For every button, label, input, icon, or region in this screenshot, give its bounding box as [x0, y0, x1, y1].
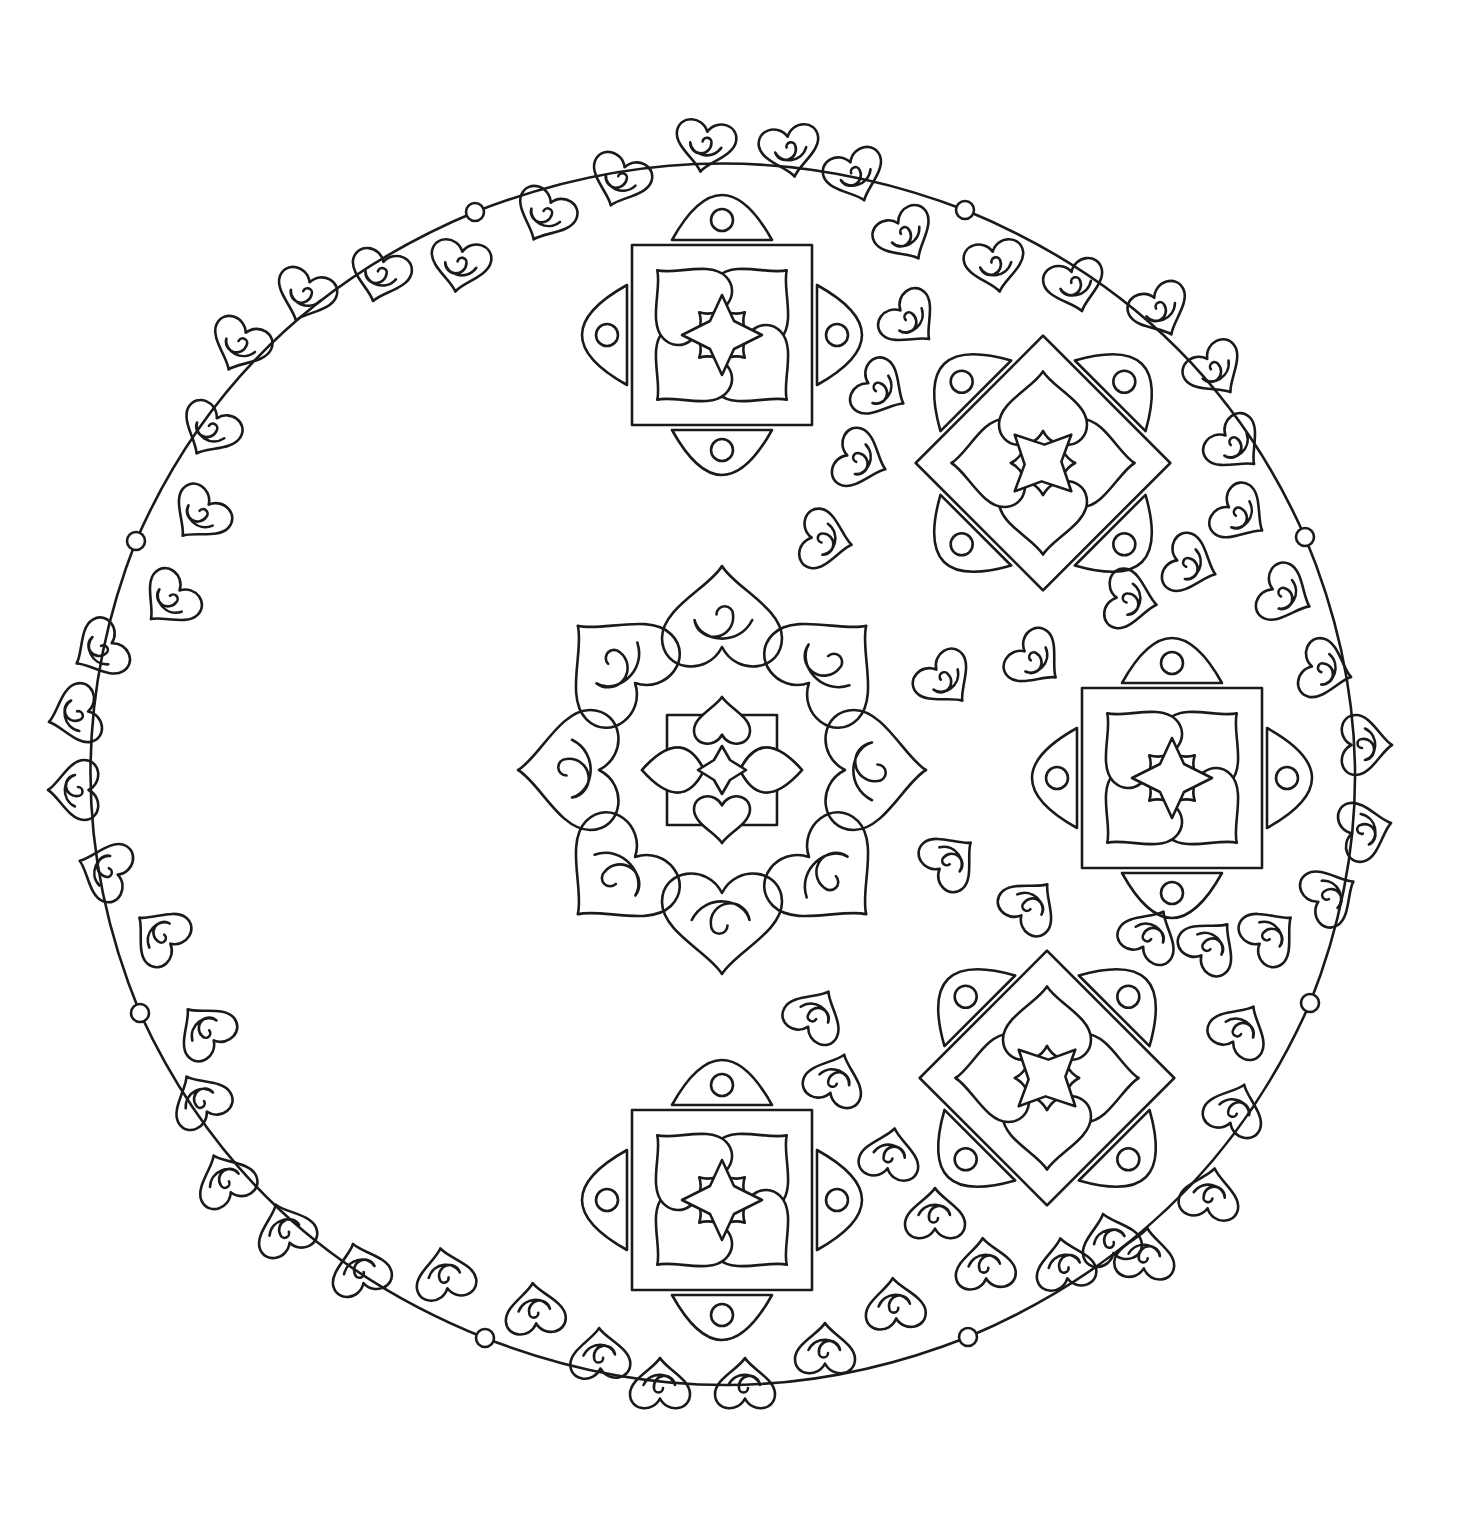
- swirl-heart: [845, 352, 918, 429]
- swirl-heart: [1335, 794, 1399, 865]
- joint-dot: [127, 532, 145, 550]
- swirl-heart: [165, 990, 243, 1067]
- swirl-heart: [856, 1123, 924, 1183]
- swirl-heart: [913, 820, 990, 898]
- mandala-artwork: [0, 0, 1470, 1523]
- swirl-heart: [268, 263, 342, 331]
- swirl-heart: [1204, 477, 1280, 555]
- swirl-heart: [1342, 715, 1392, 775]
- swirl-heart: [907, 643, 985, 720]
- swirl-heart: [1177, 334, 1255, 410]
- swirl-heart: [867, 200, 944, 273]
- swirl-heart: [671, 117, 739, 177]
- swirl-heart: [569, 1327, 631, 1379]
- center-heart-medallion: [518, 566, 926, 974]
- swirl-heart: [503, 1280, 567, 1335]
- swirl-heart: [160, 478, 238, 555]
- joint-dot: [956, 201, 974, 219]
- joint-dot: [959, 1328, 977, 1346]
- swirl-heart: [756, 122, 824, 182]
- swirl-heart: [1199, 1074, 1273, 1142]
- swirl-heart: [777, 977, 854, 1050]
- swirl-heart: [583, 148, 657, 216]
- swirl-heart: [186, 1143, 262, 1214]
- heart-flower: [845, 265, 1241, 661]
- heart-flower: [582, 195, 862, 475]
- swirl-heart: [1202, 992, 1279, 1065]
- swirl-heart: [1123, 276, 1199, 347]
- swirl-heart: [1158, 529, 1226, 603]
- swirl-heart: [324, 1236, 395, 1300]
- swirl-heart: [797, 506, 857, 574]
- swirl-heart: [130, 562, 208, 640]
- swirl-heart: [171, 395, 248, 468]
- heart-flower: [582, 1060, 862, 1340]
- swirl-heart: [1176, 1163, 1244, 1223]
- swirl-heart: [201, 311, 277, 382]
- swirl-heart: [426, 237, 494, 297]
- swirl-heart: [1295, 856, 1368, 933]
- joint-dot: [476, 1329, 494, 1347]
- swirl-heart: [1102, 566, 1162, 634]
- swirl-heart: [905, 1188, 965, 1238]
- swirl-heart: [1233, 895, 1310, 973]
- swirl-heart: [799, 1044, 873, 1112]
- heart-flower: [1032, 638, 1312, 918]
- swirl-heart: [795, 1323, 855, 1373]
- swirl-heart: [992, 865, 1070, 942]
- swirl-heart: [411, 1243, 479, 1303]
- swirl-heart: [248, 1194, 322, 1262]
- swirl-heart: [863, 1275, 927, 1330]
- joint-dot: [466, 203, 484, 221]
- swirl-heart: [120, 895, 197, 973]
- swirl-heart: [998, 622, 1075, 700]
- swirl-heart: [506, 181, 582, 252]
- swirl-heart: [1040, 255, 1111, 319]
- swirl-heart: [961, 237, 1029, 297]
- swirl-heart: [953, 1235, 1017, 1290]
- joint-dot: [1296, 528, 1314, 546]
- swirl-heart: [1251, 558, 1322, 634]
- joint-dot: [131, 1004, 149, 1022]
- swirl-heart: [872, 282, 950, 360]
- joint-dot: [1301, 994, 1319, 1012]
- swirl-heart: [828, 424, 896, 498]
